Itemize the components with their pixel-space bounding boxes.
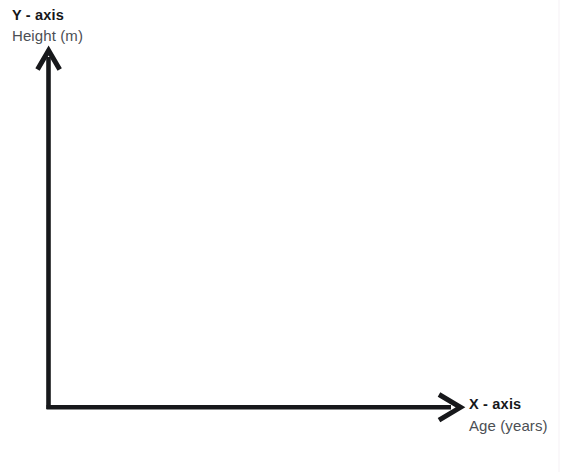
y-axis-subtitle: Height (m)	[12, 28, 83, 43]
x-axis-subtitle: Age (years)	[469, 418, 548, 433]
y-axis-title: Y - axis	[12, 8, 83, 23]
diagram-canvas: Y - axis Height (m) X - axis Age (years)	[0, 0, 572, 472]
x-axis-title: X - axis	[469, 397, 548, 412]
y-axis-label-group: Y - axis Height (m)	[12, 8, 83, 43]
x-axis-label-group: X - axis Age (years)	[469, 397, 548, 433]
